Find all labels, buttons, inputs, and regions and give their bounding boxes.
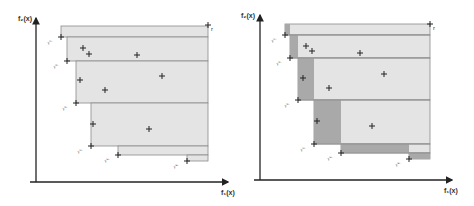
label-y6: y⁽⁶⁾ [395, 161, 401, 167]
y-axis-label: f₂(x) [18, 15, 32, 23]
right-panel: f₂(x) f₁(x) r y⁽¹⁾ y⁽²⁾ y⁽³⁾ y⁽⁴⁾ y⁽⁵⁾ y… [241, 12, 458, 195]
label-y2: y⁽²⁾ [53, 63, 59, 68]
label-y2: y⁽²⁾ [276, 60, 282, 65]
reference-point-label: r [211, 26, 213, 32]
label-y3: y⁽³⁾ [62, 105, 68, 110]
label-y1: y⁽¹⁾ [271, 37, 277, 42]
hypervolume-diagram: f₂(x) f₁(x) r y⁽¹⁾ y⁽²⁾ y⁽³⁾ y⁽⁴⁾ y⁽⁵⁾ y… [0, 0, 474, 206]
reference-point-label: r [433, 25, 435, 31]
label-y6: y⁽⁶⁾ [173, 163, 179, 169]
label-y5: y⁽⁵⁾ [104, 157, 110, 163]
label-y5: y⁽⁵⁾ [327, 155, 333, 161]
label-y1: y⁽¹⁾ [47, 39, 53, 44]
y-axis-label: f₂(x) [241, 12, 255, 20]
x-axis-label: f₁(x) [444, 187, 458, 195]
label-y4: y⁽⁴⁾ [300, 146, 306, 152]
left-panel: f₂(x) f₁(x) r y⁽¹⁾ y⁽²⁾ y⁽³⁾ y⁽⁴⁾ y⁽⁵⁾ y… [18, 15, 235, 197]
label-y3: y⁽³⁾ [284, 102, 290, 107]
x-axis-label: f₁(x) [221, 189, 235, 197]
label-y4: y⁽⁴⁾ [77, 148, 83, 154]
